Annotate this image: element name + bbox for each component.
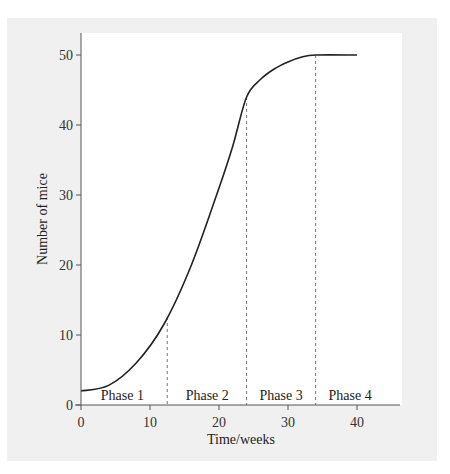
y-tick-label: 0 [66,398,73,413]
growth-curve-chart: 010203040 01020304050 Phase 1Phase 2Phas… [0,0,450,474]
plot-area [81,33,402,405]
x-tick-label: 40 [350,415,364,430]
y-tick-label: 50 [59,48,73,63]
y-tick-label: 30 [59,188,73,203]
x-tick-label: 30 [281,415,295,430]
y-ticks: 01020304050 [59,48,81,413]
x-axis-title: Time/weeks [207,432,275,447]
y-tick-label: 40 [59,118,73,133]
x-tick-label: 10 [143,415,157,430]
y-tick-label: 10 [59,328,73,343]
y-tick-label: 20 [59,258,73,273]
phase-label: Phase 4 [329,388,372,403]
x-tick-label: 20 [212,415,226,430]
x-ticks: 010203040 [78,405,365,430]
y-axis-title: Number of mice [35,173,50,265]
phase-label: Phase 2 [186,388,229,403]
x-tick-label: 0 [78,415,85,430]
phase-label: Phase 3 [260,388,303,403]
phase-label: Phase 1 [101,388,144,403]
